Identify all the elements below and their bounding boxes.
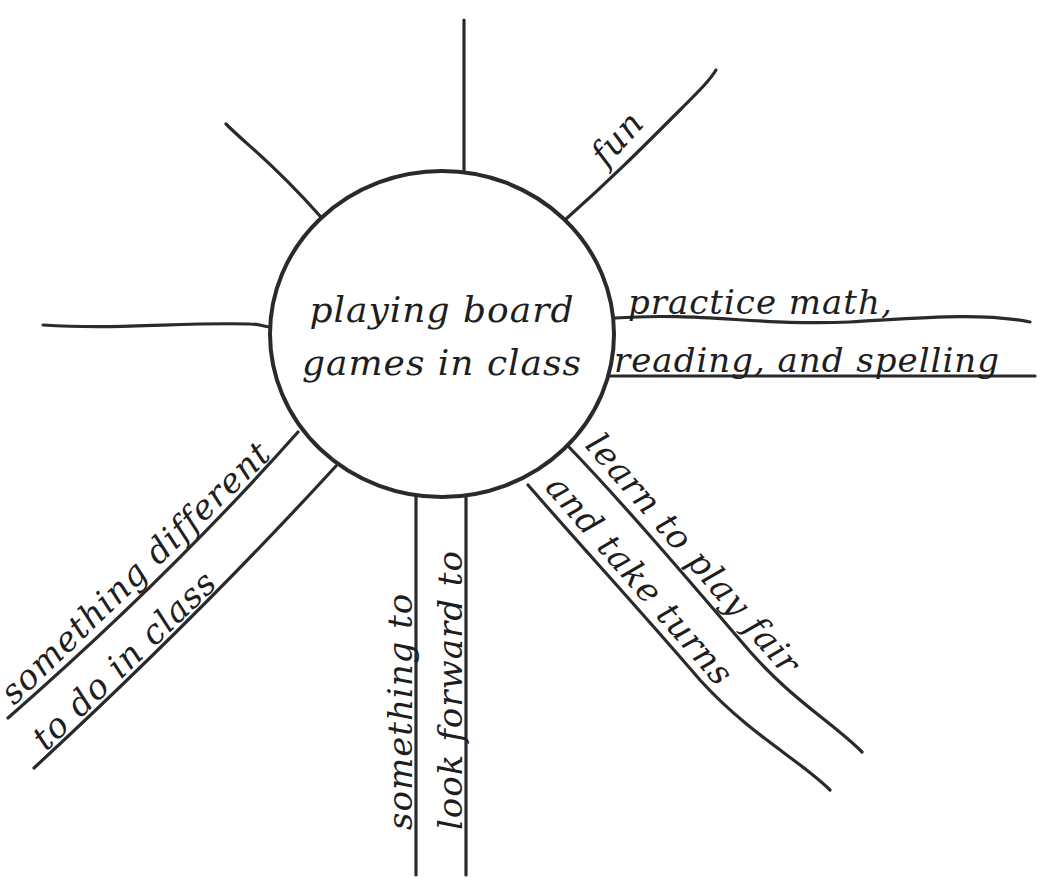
spoke-upper-left <box>226 124 320 216</box>
spoke-label-look-forward-to: look forward to <box>430 550 470 830</box>
spoke-label-fun: fun <box>580 102 651 175</box>
spoke-left <box>43 324 270 327</box>
center-text-line1: playing board <box>310 289 575 330</box>
center-circle <box>270 171 614 497</box>
center-text-line2: games in class <box>302 342 582 383</box>
spoke-label-something-to: something to <box>380 593 420 830</box>
web-diagram: playing board games in class fun practic… <box>0 0 1043 893</box>
spoke-label-practice-math: practice math, <box>628 282 893 322</box>
diagram-canvas: playing board games in class fun practic… <box>0 0 1043 893</box>
spoke-label-reading-spelling: reading, and spelling <box>614 340 1000 380</box>
